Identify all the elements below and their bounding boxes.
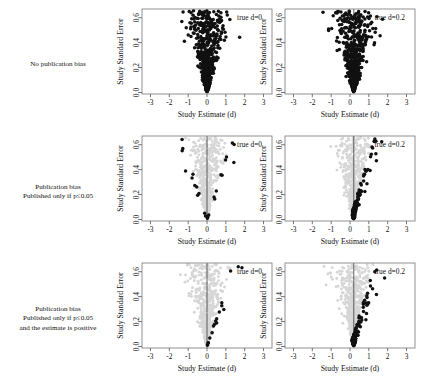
x-tick-label: 0 bbox=[205, 98, 209, 107]
unpublished-points bbox=[323, 263, 375, 339]
row-condition-label: Publication biasPublished only if p≤0.05… bbox=[2, 305, 114, 333]
x-tick-label: 0 bbox=[205, 352, 209, 361]
funnel-plot-figure: No publication bias-3-2-101230.00.20.40.… bbox=[0, 0, 430, 383]
x-tick-label: 1 bbox=[367, 352, 371, 361]
x-tick-label: 1 bbox=[224, 352, 228, 361]
published-points bbox=[180, 9, 241, 93]
x-tick-label: 2 bbox=[386, 352, 390, 361]
x-tick-label: 2 bbox=[243, 352, 247, 361]
x-tick-label: 3 bbox=[405, 352, 409, 361]
x-axis-title: Study Estimate (d) bbox=[321, 110, 380, 119]
y-tick-label: 0.2 bbox=[132, 190, 141, 200]
row-condition-label-line: Publication bias bbox=[2, 305, 114, 314]
x-tick-label: -1 bbox=[328, 225, 334, 234]
x-tick-label: -2 bbox=[166, 98, 172, 107]
x-tick-label: 3 bbox=[405, 225, 409, 234]
y-tick-label: 0.6 bbox=[275, 13, 284, 23]
x-tick-label: 2 bbox=[386, 98, 390, 107]
x-tick-label: -3 bbox=[290, 352, 296, 361]
y-axis-title: Study Standard Error bbox=[116, 145, 125, 212]
x-tick-label: -2 bbox=[309, 98, 315, 107]
row-condition-label: No publication bias bbox=[2, 60, 114, 69]
x-tick-label: 0 bbox=[348, 98, 352, 107]
x-tick-label: -2 bbox=[309, 352, 315, 361]
y-axis-title: Study Standard Error bbox=[259, 18, 268, 85]
figure-row: Publication biasPublished only if p≤0.05… bbox=[0, 255, 430, 383]
figure-row: No publication bias-3-2-101230.00.20.40.… bbox=[0, 1, 430, 129]
y-tick-label: 0.0 bbox=[275, 215, 284, 225]
x-tick-label: -3 bbox=[290, 225, 296, 234]
x-axis-title: Study Estimate (d) bbox=[321, 364, 380, 373]
y-tick-label: 0.4 bbox=[132, 38, 141, 48]
x-tick-label: 1 bbox=[224, 225, 228, 234]
y-tick-label: 0.2 bbox=[132, 63, 141, 73]
y-tick-label: 0.0 bbox=[275, 88, 284, 98]
y-tick-label: 0.2 bbox=[275, 317, 284, 327]
y-tick-label: 0.6 bbox=[132, 267, 141, 277]
funnel-panel: -3-2-101230.00.20.40.6Study Estimate (d)… bbox=[255, 1, 430, 129]
x-tick-label: -3 bbox=[147, 352, 153, 361]
true-effect-annotation: true d=0.2 bbox=[375, 13, 406, 22]
x-tick-label: -3 bbox=[147, 98, 153, 107]
true-effect-annotation: true d=0.2 bbox=[375, 140, 406, 149]
x-tick-label: 1 bbox=[224, 98, 228, 107]
x-axis-title: Study Estimate (d) bbox=[178, 110, 237, 119]
true-effect-annotation: true d=0.2 bbox=[375, 267, 406, 276]
x-tick-label: -1 bbox=[185, 225, 191, 234]
x-tick-label: 2 bbox=[243, 225, 247, 234]
x-tick-label: -2 bbox=[166, 352, 172, 361]
row-condition-label: Publication biasPublished only if p≤0.05 bbox=[2, 183, 114, 201]
x-tick-label: 0 bbox=[348, 225, 352, 234]
figure-row: Publication biasPublished only if p≤0.05… bbox=[0, 128, 430, 256]
x-tick-label: 0 bbox=[205, 225, 209, 234]
y-tick-label: 0.0 bbox=[132, 215, 141, 225]
y-tick-label: 0.6 bbox=[132, 13, 141, 23]
x-axis-title: Study Estimate (d) bbox=[178, 237, 237, 246]
row-condition-label-line: Publication bias bbox=[2, 183, 114, 192]
y-tick-label: 0.0 bbox=[132, 342, 141, 352]
y-tick-label: 0.2 bbox=[132, 317, 141, 327]
y-tick-label: 0.2 bbox=[275, 190, 284, 200]
x-tick-label: 1 bbox=[367, 225, 371, 234]
x-tick-label: -3 bbox=[290, 98, 296, 107]
x-tick-label: 1 bbox=[367, 98, 371, 107]
funnel-panel: -3-2-101230.00.20.40.6Study Estimate (d)… bbox=[255, 128, 430, 256]
row-condition-label-line: No publication bias bbox=[2, 60, 114, 69]
x-tick-label: -1 bbox=[185, 98, 191, 107]
y-axis-title: Study Standard Error bbox=[116, 272, 125, 339]
y-tick-label: 0.0 bbox=[132, 88, 141, 98]
x-tick-label: -3 bbox=[147, 225, 153, 234]
y-tick-label: 0.2 bbox=[275, 63, 284, 73]
x-tick-label: -1 bbox=[328, 98, 334, 107]
x-tick-label: 0 bbox=[348, 352, 352, 361]
y-axis-title: Study Standard Error bbox=[259, 145, 268, 212]
x-tick-label: -1 bbox=[185, 352, 191, 361]
y-tick-label: 0.4 bbox=[132, 165, 141, 175]
x-axis-title: Study Estimate (d) bbox=[178, 364, 237, 373]
funnel-panel: -3-2-101230.00.20.40.6Study Estimate (d)… bbox=[255, 255, 430, 383]
x-tick-label: 3 bbox=[405, 98, 409, 107]
x-tick-label: 2 bbox=[386, 225, 390, 234]
y-tick-label: 0.6 bbox=[275, 267, 284, 277]
x-tick-label: -2 bbox=[309, 225, 315, 234]
row-condition-label-line: Published only if p≤0.05 bbox=[2, 314, 114, 323]
row-condition-label-line: Published only if p≤0.05 bbox=[2, 192, 114, 201]
y-tick-label: 0.4 bbox=[275, 292, 284, 302]
unpublished-points bbox=[179, 263, 232, 346]
y-tick-label: 0.0 bbox=[275, 342, 284, 352]
y-tick-label: 0.4 bbox=[275, 165, 284, 175]
row-condition-label-line: and the estimate is positive bbox=[2, 324, 114, 333]
x-tick-label: -2 bbox=[166, 225, 172, 234]
x-tick-label: -1 bbox=[328, 352, 334, 361]
x-tick-label: 2 bbox=[243, 98, 247, 107]
x-axis-title: Study Estimate (d) bbox=[321, 237, 380, 246]
y-tick-label: 0.6 bbox=[275, 140, 284, 150]
y-tick-label: 0.4 bbox=[132, 292, 141, 302]
y-axis-title: Study Standard Error bbox=[116, 18, 125, 85]
y-tick-label: 0.4 bbox=[275, 38, 284, 48]
y-axis-title: Study Standard Error bbox=[259, 272, 268, 339]
y-tick-label: 0.6 bbox=[132, 140, 141, 150]
